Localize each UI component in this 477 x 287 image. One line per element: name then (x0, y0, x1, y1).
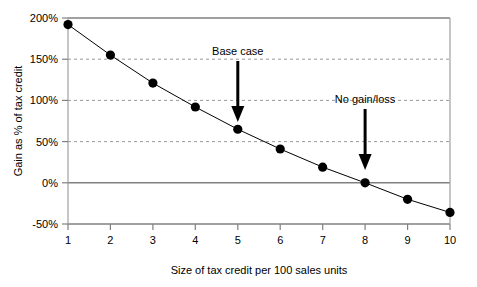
annotation-label-no-gain-loss: No gain/loss (335, 93, 396, 105)
x-axis-ticks (68, 224, 450, 230)
data-point-10 (445, 208, 454, 217)
y-axis-tick-labels: 200% 150% 100% 50% 0% -50% (30, 12, 58, 230)
y-tick-label-100: 100% (30, 94, 58, 106)
data-point-6 (276, 144, 285, 153)
line-chart: 200% 150% 100% 50% 0% -50% 1 2 3 4 5 (0, 0, 477, 287)
x-tick-label-6: 6 (277, 234, 283, 246)
data-point-8 (361, 178, 370, 187)
data-point-4 (191, 102, 200, 111)
x-axis-tick-labels: 1 2 3 4 5 6 7 8 9 10 (65, 234, 456, 246)
x-tick-label-5: 5 (235, 234, 241, 246)
x-tick-label-8: 8 (362, 234, 368, 246)
x-tick-label-4: 4 (192, 234, 198, 246)
x-tick-label-7: 7 (320, 234, 326, 246)
y-tick-label-200: 200% (30, 12, 58, 24)
y-tick-label-50: 50% (36, 136, 58, 148)
y-tick-label-neg50: -50% (32, 218, 58, 230)
annotation-label-base-case: Base case (212, 45, 263, 57)
y-tick-label-150: 150% (30, 53, 58, 65)
x-tick-label-3: 3 (150, 234, 156, 246)
x-tick-label-10: 10 (444, 234, 456, 246)
data-point-2 (106, 50, 115, 59)
y-axis-title: Gain as % of tax credit (12, 66, 24, 177)
x-tick-label-1: 1 (65, 234, 71, 246)
data-point-5 (233, 125, 242, 134)
data-point-7 (318, 163, 327, 172)
chart-figure: 200% 150% 100% 50% 0% -50% 1 2 3 4 5 (0, 0, 477, 287)
y-axis-ticks (62, 18, 68, 224)
data-point-9 (403, 195, 412, 204)
data-point-3 (148, 79, 157, 88)
data-point-1 (63, 20, 72, 29)
y-tick-label-0: 0% (42, 177, 58, 189)
x-axis-title: Size of tax credit per 100 sales units (171, 264, 348, 276)
x-tick-label-2: 2 (107, 234, 113, 246)
x-tick-label-9: 9 (405, 234, 411, 246)
